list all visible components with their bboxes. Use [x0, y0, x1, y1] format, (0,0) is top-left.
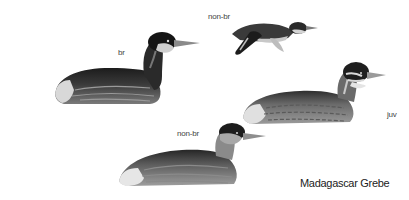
field-guide-plate: br non-br	[0, 0, 409, 200]
label-juv: juv	[387, 111, 397, 119]
label-non-br-swimming: non-br	[177, 130, 199, 138]
grebe-flying-illustration	[226, 16, 316, 58]
grebe-juvenile-illustration	[240, 58, 390, 130]
grebe-breeding-illustration	[50, 28, 210, 108]
label-non-br-flying: non-br	[208, 13, 230, 21]
label-br: br	[118, 49, 125, 57]
species-title: Madagascar Grebe	[300, 178, 389, 189]
